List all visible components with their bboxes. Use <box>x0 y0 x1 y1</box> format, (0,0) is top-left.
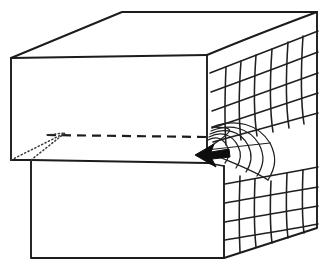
figure-root <box>0 0 328 275</box>
mesh-col-l1 <box>239 176 240 252</box>
upper-block-front-face-fill <box>11 55 224 166</box>
cracked-block-diagram <box>0 0 328 275</box>
lower-block-front-face-fill <box>31 160 224 258</box>
